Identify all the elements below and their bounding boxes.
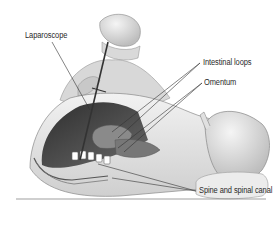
label-laparoscope: Laparoscope <box>25 30 67 40</box>
label-intestinal-loops: Intestinal loops <box>203 57 251 67</box>
label-spine-and-spinal-canal: Spine and spinal canal <box>199 185 272 195</box>
label-omentum: Omentum <box>204 77 236 87</box>
